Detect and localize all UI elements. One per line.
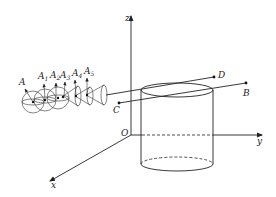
- x-axis: [50, 135, 131, 181]
- ray-to-D: [106, 77, 214, 95]
- label-y: y: [256, 136, 263, 146]
- cylinder-bottom-back: [141, 157, 213, 164]
- label-B: B: [242, 88, 250, 98]
- cylinder-bottom-front: [141, 164, 213, 171]
- arrow-A1: [44, 84, 45, 100]
- label-A2: A2: [49, 70, 61, 81]
- point-C: [118, 102, 121, 105]
- label-A1: A1: [37, 71, 48, 82]
- label-A4: A4: [71, 68, 83, 79]
- cylinder: [141, 83, 213, 171]
- label-A3: A3: [59, 70, 71, 81]
- label-x: x: [51, 180, 56, 190]
- label-A: A: [18, 77, 26, 87]
- label-origin: O: [121, 128, 129, 138]
- rays: [106, 76, 247, 105]
- label-C: C: [113, 105, 120, 115]
- center-A2: [57, 97, 59, 99]
- label-D: D: [217, 70, 225, 80]
- point-B: [245, 82, 248, 85]
- axes: [50, 16, 262, 181]
- particle-sequence: [22, 78, 107, 113]
- diagram-canvas: z O y x D B C A A1 A2 A3 A4 A5: [0, 0, 276, 197]
- ray-C-to-B: [119, 83, 246, 103]
- label-z: z: [124, 13, 130, 23]
- point-D: [213, 76, 216, 79]
- label-A5: A5: [83, 66, 95, 77]
